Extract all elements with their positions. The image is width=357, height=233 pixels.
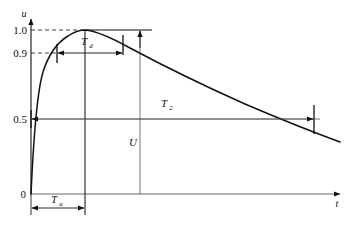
label-Ta-symbol: T (51, 193, 58, 205)
y-tick-label-0.9: 0.9 (13, 47, 27, 59)
y-axis-label: u (22, 8, 27, 19)
y-tick-label-0.5: 0.5 (13, 113, 27, 125)
label-Ta-subscript: a (59, 200, 63, 208)
dimension-arrows-group (32, 31, 313, 208)
impulse-waveform-figure: u t 1.0 0.9 0.5 0 T d T 2 U T a (0, 0, 357, 233)
label-T2: T 2 (161, 97, 173, 112)
origin-label: 0 (21, 188, 27, 200)
guide-lines-group (31, 30, 320, 215)
waveform-svg: u t 1.0 0.9 0.5 0 T d T 2 U T a (0, 0, 357, 233)
y-tick-label-1: 1.0 (13, 24, 27, 36)
label-Td-subscript: d (89, 42, 93, 50)
label-T2-subscript: 2 (169, 104, 173, 112)
label-Td-symbol: T (81, 35, 88, 47)
x-axis-label: t (336, 198, 339, 209)
label-Td: T d (81, 35, 93, 50)
axes-group (31, 19, 340, 194)
label-T2-symbol: T (161, 97, 168, 109)
waveform-curve-group (31, 30, 340, 194)
label-U: U (129, 136, 138, 148)
impulse-curve (31, 30, 340, 194)
labels-group: u t 1.0 0.9 0.5 0 T d T 2 U T a (13, 8, 338, 209)
label-Ta: T a (51, 193, 63, 208)
